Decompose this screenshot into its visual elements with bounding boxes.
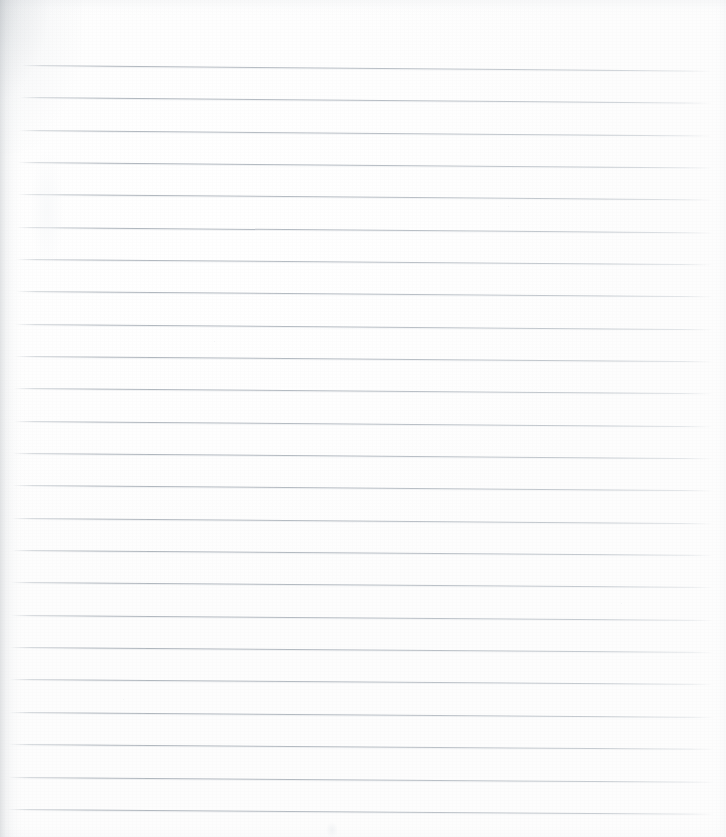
paper-background xyxy=(0,0,726,837)
scanned-page: Scanned blank lined notebook page xyxy=(0,0,726,837)
